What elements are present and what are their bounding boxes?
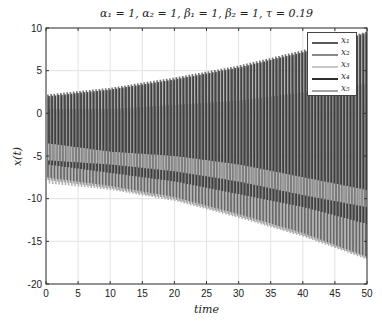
svg-text:35: 35 [265,288,277,299]
legend-swatch-x2 [312,54,338,56]
svg-text:45: 45 [329,288,341,299]
legend-swatch-x5 [312,90,338,92]
svg-text:5: 5 [36,65,42,76]
legend-swatch-x4 [312,78,338,80]
svg-text:20: 20 [169,288,181,299]
legend-label-x2: x₂ [341,47,350,57]
svg-text:-5: -5 [33,151,42,162]
x-axis-label: time [46,303,367,316]
legend-label-x4: x₄ [341,71,350,81]
legend-label-x3: x₃ [341,59,350,69]
legend-item-x5: x₅ [312,85,356,97]
svg-text:50: 50 [361,288,373,299]
svg-text:30: 30 [233,288,245,299]
figure: α₁ = 1, α₂ = 1, β₁ = 1, β₂ = 1, τ = 0.19… [0,0,382,327]
legend-label-x5: x₅ [341,83,350,93]
svg-text:10: 10 [105,288,117,299]
svg-text:-20: -20 [28,279,43,290]
legend: x₁ x₂ x₃ x₄ x₅ [307,32,357,96]
svg-text:5: 5 [75,288,81,299]
svg-text:15: 15 [137,288,149,299]
legend-swatch-x1 [312,42,338,44]
svg-text:10: 10 [31,23,43,34]
legend-swatch-x3 [312,66,338,68]
svg-text:25: 25 [201,288,213,299]
svg-text:-15: -15 [28,236,43,247]
svg-text:0: 0 [36,108,42,119]
svg-text:-10: -10 [28,193,43,204]
svg-text:0: 0 [43,288,49,299]
svg-text:40: 40 [297,288,309,299]
legend-label-x1: x₁ [341,35,350,45]
y-axis-label: x(t) [11,142,24,172]
